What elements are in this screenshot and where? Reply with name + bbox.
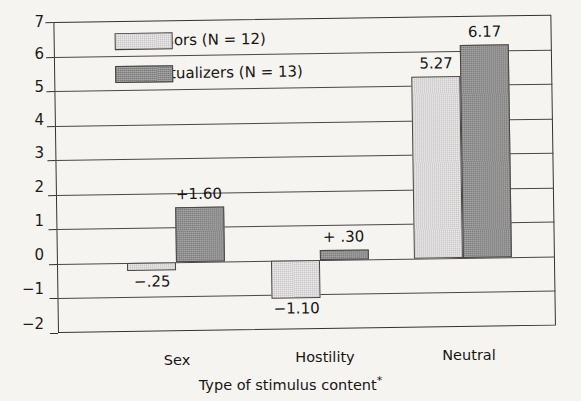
legend-item-repressors: Repressors (N = 12) xyxy=(115,27,405,52)
value-label-sex-intellectualizers: +1.60 xyxy=(159,186,239,202)
ytick-label-3: 3 xyxy=(4,146,44,161)
ytick-minus-2 xyxy=(50,333,58,334)
ytick-label-6: 6 xyxy=(4,47,44,62)
ytick-label-2: 2 xyxy=(4,180,44,195)
bar-neutral-repressors xyxy=(411,76,463,259)
ytick-minus-1 xyxy=(49,298,57,299)
ytick-label-1: 1 xyxy=(4,214,44,229)
xtick-label-sex: Sex xyxy=(137,353,217,368)
ytick-label-minus-1: −1 xyxy=(4,282,44,297)
value-label-hostility-repressors: −1.10 xyxy=(257,301,337,317)
bar-hostility-intellectualizers xyxy=(320,249,369,260)
bar-chart-figure: −.25 +1.60 −1.10 + .30 5.27 6.17 Repress… xyxy=(0,0,581,401)
xtick-label-hostility: Hostility xyxy=(280,350,370,365)
footnote-marker-icon: * xyxy=(377,374,383,387)
ytick-label-0: 0 xyxy=(4,248,44,263)
chart-legend: Repressors (N = 12) Intellectualizers (N… xyxy=(115,27,406,97)
legend-swatch-repressors xyxy=(115,32,173,50)
bar-neutral-intellectualizers xyxy=(460,44,512,258)
ytick-4 xyxy=(47,126,55,127)
legend-item-intellectualizers: Intellectualizers (N = 13) xyxy=(115,60,405,85)
value-label-neutral-intellectualizers: 6.17 xyxy=(444,24,524,40)
bar-sex-repressors xyxy=(127,262,176,271)
bar-hostility-repressors xyxy=(271,260,321,299)
ytick-7 xyxy=(45,22,53,23)
ytick-label-minus-2: −2 xyxy=(4,317,44,332)
value-label-sex-repressors: −.25 xyxy=(112,274,192,290)
ytick-1 xyxy=(48,229,56,230)
ytick-label-4: 4 xyxy=(4,113,44,128)
plot-skew-wrapper: −.25 +1.60 −1.10 + .30 5.27 6.17 Repress… xyxy=(0,0,581,401)
x-axis-title-text: Type of stimulus content xyxy=(199,377,377,393)
ytick-label-5: 5 xyxy=(4,80,44,95)
ytick-5 xyxy=(46,91,54,92)
x-axis-title: Type of stimulus content* xyxy=(0,375,581,392)
ytick-0 xyxy=(49,264,57,265)
ytick-3 xyxy=(47,160,55,161)
ytick-label-7: 7 xyxy=(4,15,44,30)
value-label-hostility-intellectualizers: + .30 xyxy=(304,229,384,245)
xtick-label-neutral: Neutral xyxy=(424,348,514,363)
bar-sex-intellectualizers xyxy=(175,206,225,262)
legend-swatch-intellectualizers xyxy=(115,65,173,83)
ytick-2 xyxy=(48,195,56,196)
ytick-6 xyxy=(46,57,54,58)
value-label-neutral-repressors: 5.27 xyxy=(396,56,476,72)
